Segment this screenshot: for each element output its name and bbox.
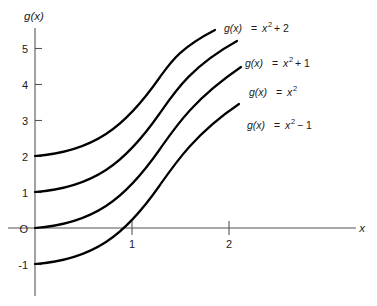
curve-x2-plus-1 [35, 41, 237, 192]
svg-text:2: 2 [291, 117, 295, 126]
svg-text:=: = [251, 22, 257, 34]
svg-text:g(x): g(x) [249, 86, 267, 98]
y-tick-label-4: 4 [22, 79, 28, 91]
svg-text:x: x [284, 119, 291, 131]
svg-text:2: 2 [289, 55, 293, 64]
y-tick-label-3: 3 [22, 115, 28, 127]
svg-text:x: x [261, 22, 268, 34]
x-tick-label-1: 1 [129, 238, 135, 250]
curve-x2-plus-2 [35, 30, 215, 156]
svg-text:=: = [276, 86, 282, 98]
y-tick-label-2: 2 [22, 151, 28, 163]
function-graph: 5 4 3 2 1 O -1 1 2 g(x) x g(x) = [0, 0, 377, 306]
curves-group [35, 30, 241, 264]
svg-text:g(x): g(x) [245, 57, 263, 69]
svg-text:=: = [272, 57, 278, 69]
y-tick-label-neg1: -1 [18, 259, 28, 271]
curve-label-x2-plus-2: g(x) = x 2 + 2 [224, 20, 289, 34]
svg-text:− 1: − 1 [297, 119, 312, 131]
y-axis-label: g(x) [24, 10, 44, 22]
svg-text:x: x [286, 86, 293, 98]
svg-text:g(x): g(x) [247, 119, 265, 131]
origin-label: O [19, 223, 28, 235]
curve-x2-minus-1 [35, 104, 239, 264]
curve-label-x2-minus-1: g(x) = x 2 − 1 [247, 117, 312, 131]
y-tick-labels: 5 4 3 2 1 O -1 [18, 43, 28, 271]
svg-text:g(x): g(x) [224, 22, 242, 34]
x-tick-label-2: 2 [226, 238, 232, 250]
svg-text:2: 2 [268, 20, 272, 29]
y-tick-label-5: 5 [22, 43, 28, 55]
svg-text:+ 1: + 1 [295, 57, 310, 69]
curve-label-x2: g(x) = x 2 [249, 84, 297, 98]
y-tick-label-1: 1 [22, 187, 28, 199]
curve-label-x2-plus-1: g(x) = x 2 + 1 [245, 55, 310, 69]
svg-text:x: x [282, 57, 289, 69]
figure-container: 5 4 3 2 1 O -1 1 2 g(x) x g(x) = [0, 0, 377, 306]
x-axis-label: x [358, 222, 366, 234]
curve-x2 [35, 67, 241, 228]
svg-text:2: 2 [293, 84, 297, 93]
svg-text:+ 2: + 2 [274, 22, 289, 34]
x-tick-labels: 1 2 [129, 238, 232, 250]
svg-text:=: = [274, 119, 280, 131]
curve-labels: g(x) = x 2 + 2 g(x) = x 2 + 1 g(x) = x 2… [224, 20, 312, 131]
